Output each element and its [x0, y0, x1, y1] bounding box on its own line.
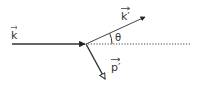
vector-arrow-icon: [111, 57, 120, 62]
incident-label: k: [11, 30, 17, 41]
vector-arrow-icon: [121, 6, 130, 11]
recoil-label: p′: [111, 62, 120, 73]
angle-arc: [110, 33, 112, 44]
scattering-diagram: k k′ p′ θ: [0, 0, 199, 89]
angle-label: θ: [115, 33, 121, 43]
vector-arrow-icon: [11, 25, 17, 30]
diagram-canvas: [0, 0, 199, 89]
scattered-label: k′: [121, 11, 130, 22]
recoil-vector-line: [86, 44, 105, 79]
